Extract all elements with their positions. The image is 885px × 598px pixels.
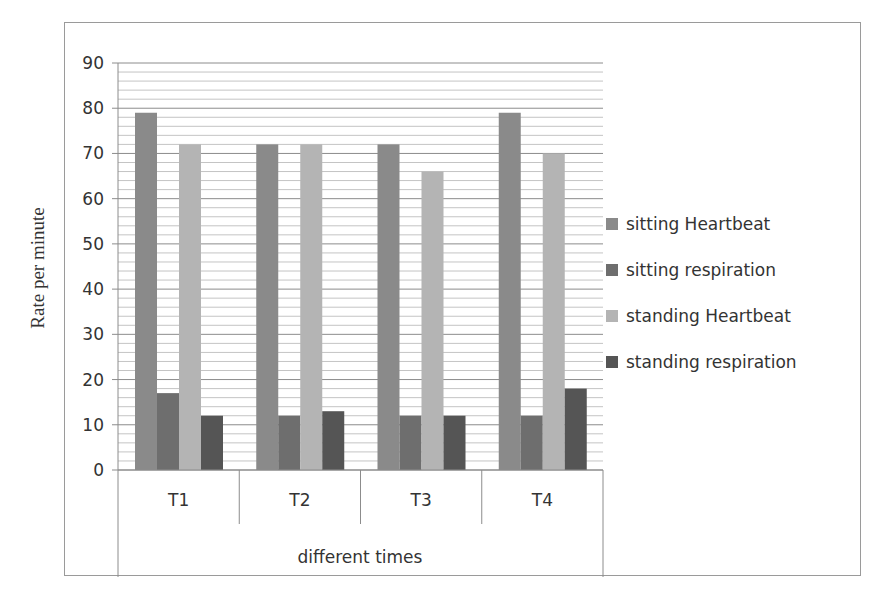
legend-swatch-icon bbox=[606, 264, 618, 276]
bar bbox=[400, 416, 422, 470]
x-tick-label: T3 bbox=[410, 490, 432, 510]
y-axis-ticks: 0102030405060708090 bbox=[82, 53, 104, 480]
y-tick-label: 90 bbox=[82, 53, 104, 73]
bar bbox=[278, 416, 300, 470]
legend-item: sitting respiration bbox=[606, 260, 776, 280]
y-axis-title: Rate per minute bbox=[27, 207, 48, 328]
legend-swatch-icon bbox=[606, 310, 618, 322]
bar bbox=[322, 411, 344, 470]
bar bbox=[201, 416, 223, 470]
bar bbox=[422, 172, 444, 470]
legend-item: standing respiration bbox=[606, 352, 797, 372]
y-tick-label: 70 bbox=[82, 143, 104, 163]
bar bbox=[300, 144, 322, 470]
bar bbox=[135, 113, 157, 470]
legend-item: standing Heartbeat bbox=[606, 306, 791, 326]
bar bbox=[256, 144, 278, 470]
bars bbox=[135, 113, 587, 470]
bar bbox=[444, 416, 466, 470]
x-tick-label: T4 bbox=[531, 490, 553, 510]
bar bbox=[179, 144, 201, 470]
x-tick-label: T1 bbox=[167, 490, 189, 510]
y-tick-label: 30 bbox=[82, 324, 104, 344]
y-tick-label: 10 bbox=[82, 415, 104, 435]
legend-label: sitting Heartbeat bbox=[626, 214, 771, 234]
y-tick-label: 50 bbox=[82, 234, 104, 254]
y-tick-label: 40 bbox=[82, 279, 104, 299]
x-axis-title: different times bbox=[298, 547, 423, 567]
bar bbox=[378, 144, 400, 470]
bar-chart: 0102030405060708090 T1T2T3T4 Rate per mi… bbox=[0, 0, 885, 598]
legend-label: standing Heartbeat bbox=[626, 306, 791, 326]
y-tick-label: 20 bbox=[82, 370, 104, 390]
bar bbox=[521, 416, 543, 470]
legend-swatch-icon bbox=[606, 218, 618, 230]
x-tick-label: T2 bbox=[288, 490, 310, 510]
bar bbox=[499, 113, 521, 470]
legend: sitting Heartbeatsitting respirationstan… bbox=[606, 214, 797, 372]
legend-label: sitting respiration bbox=[626, 260, 776, 280]
y-tick-label: 80 bbox=[82, 98, 104, 118]
bar bbox=[543, 153, 565, 470]
legend-item: sitting Heartbeat bbox=[606, 214, 771, 234]
legend-swatch-icon bbox=[606, 356, 618, 368]
y-tick-label: 0 bbox=[93, 460, 104, 480]
bar bbox=[157, 393, 179, 470]
y-tick-label: 60 bbox=[82, 189, 104, 209]
legend-label: standing respiration bbox=[626, 352, 797, 372]
bar bbox=[565, 389, 587, 470]
